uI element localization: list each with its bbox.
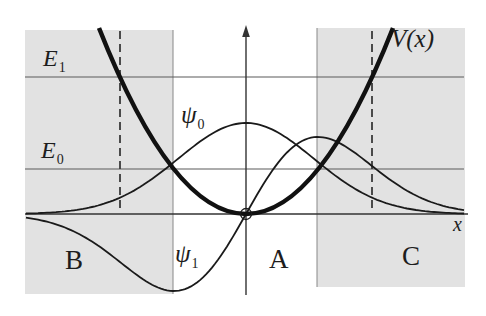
energy-label-e0-sub: 0 [57,152,64,167]
wavefunction-label-psi1: ψ1 [175,240,199,271]
potential-label: V(x) [391,25,434,53]
region-label-c: C [402,242,420,272]
wavefunction-label-psi0: ψ0 [181,101,205,132]
x-axis-label: x [453,213,462,235]
energy-label-e1-sub: 1 [59,60,66,75]
region-label-a: A [269,245,289,275]
forbidden-region-c-shade [317,28,465,287]
region-label-b: B [65,246,83,276]
energy-label-e1: E1 [43,45,66,75]
psi0-sub: 0 [198,117,205,132]
quantum-oscillator-figure: E1 E0 ψ0 ψ1 V(x) x A B C [0,0,486,316]
energy-label-e0-base: E [41,137,56,163]
energy-label-e0: E0 [41,137,64,167]
y-axis-arrowhead-icon [242,25,250,37]
energy-label-e1-base: E [43,45,58,71]
psi1-sub: 1 [192,256,199,271]
psi1-base: ψ [175,240,191,267]
psi0-base: ψ [181,101,197,128]
